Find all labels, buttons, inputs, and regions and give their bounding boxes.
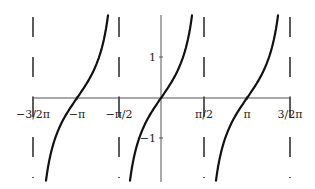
x-tick-label: −π/2 [105, 108, 132, 121]
x-tick-label: −π [69, 108, 85, 121]
x-tick-label: 3/2π [278, 108, 303, 121]
x-tick-label: π [243, 108, 250, 121]
x-tick-label: −3/2π [16, 108, 50, 121]
tangent-plot: −3/2π−π−π/2π/2π3/2π1−1 [0, 0, 315, 189]
x-tick-label: π/2 [195, 108, 213, 121]
y-tick-label: 1 [149, 51, 156, 64]
y-tick-label: −1 [140, 132, 156, 145]
